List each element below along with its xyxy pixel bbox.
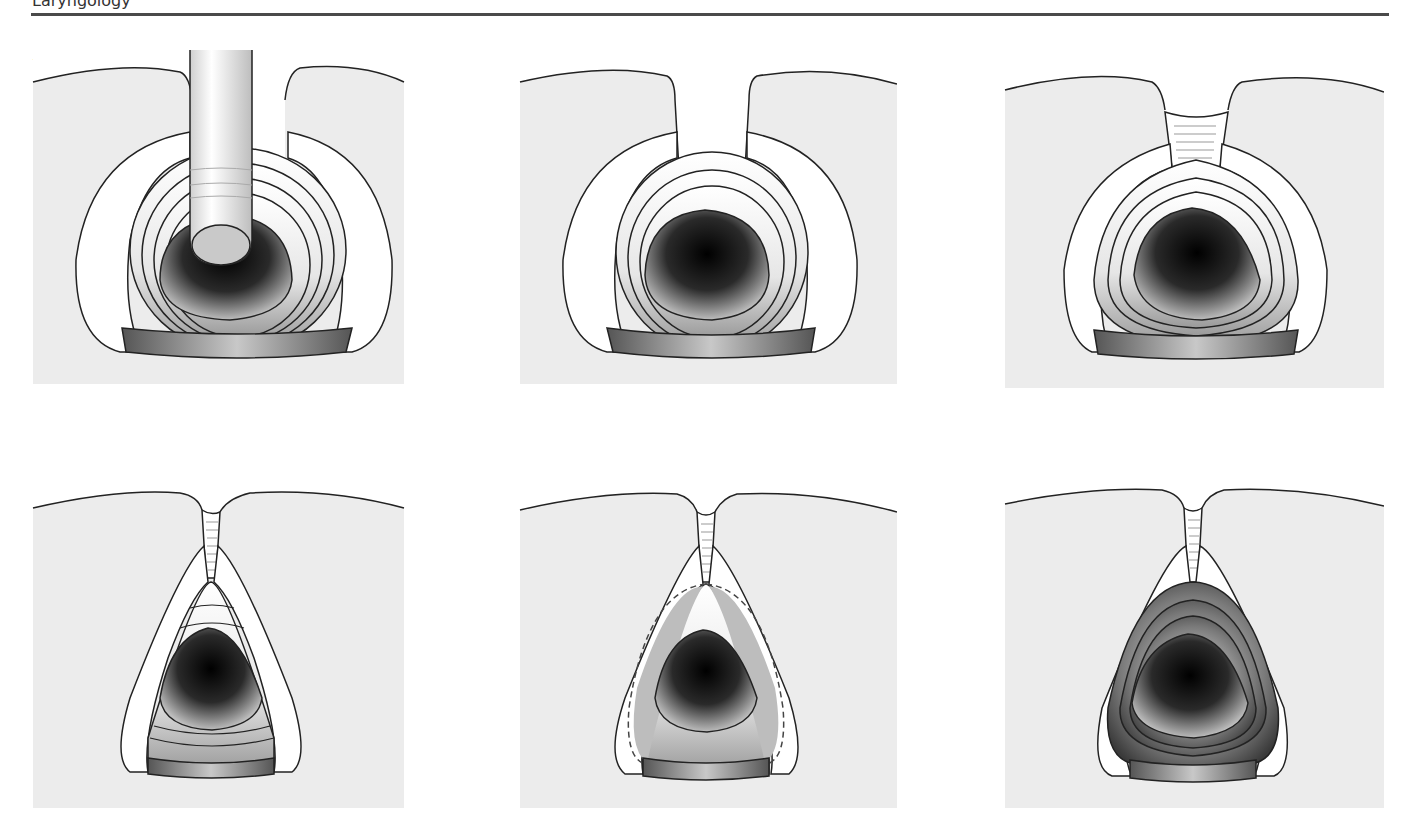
panel-f: F — [1002, 458, 1382, 810]
reconstructed-airway-illustration — [1002, 458, 1384, 810]
panel-c: C — [1002, 40, 1382, 388]
early-scar-band-illustration — [1002, 40, 1384, 388]
panel-b: B — [517, 40, 897, 385]
section-header-text: Laryngology — [32, 0, 131, 10]
panel-d: D — [30, 458, 410, 810]
airway-with-tube-illustration — [30, 40, 410, 385]
header-rule — [31, 13, 1389, 16]
panel-e: E — [517, 458, 897, 810]
dashed-excision-outline-illustration — [517, 458, 897, 810]
narrowed-triangular-airway-illustration — [30, 458, 410, 810]
panel-a: A — [30, 40, 410, 385]
open-posterior-gap-illustration — [517, 40, 897, 385]
